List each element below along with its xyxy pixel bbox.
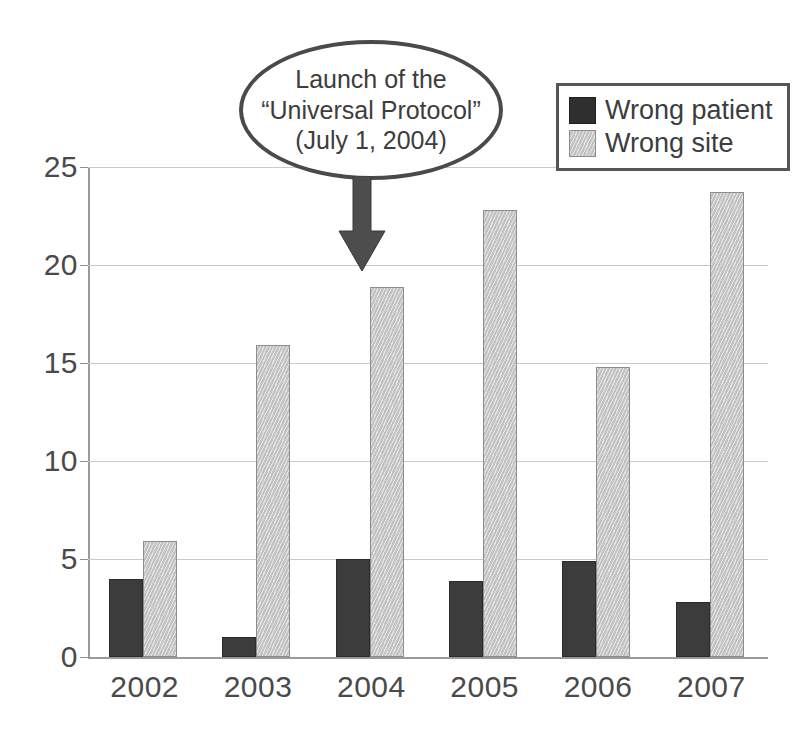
y-axis-tick-mark <box>80 363 88 364</box>
annotation-line-1: Launch of the <box>295 64 447 95</box>
bar-wrong-patient-2004[interactable] <box>336 559 370 657</box>
bar-wrong-patient-2002[interactable] <box>109 579 143 657</box>
bar-wrong-site-2003[interactable] <box>256 345 290 657</box>
y-axis-tick-mark <box>80 265 88 266</box>
y-axis-tick-mark <box>80 657 88 658</box>
bar-wrong-patient-2006[interactable] <box>562 561 596 657</box>
legend-item-wrong-patient[interactable]: Wrong patient <box>569 94 773 127</box>
y-axis-tick-label: 0 <box>61 642 78 672</box>
legend-item-wrong-site[interactable]: Wrong site <box>569 127 773 160</box>
down-arrow-icon <box>338 176 386 272</box>
bar-group-2002 <box>109 167 177 657</box>
gridline <box>88 461 768 462</box>
y-axis-tick-mark <box>80 559 88 560</box>
bar-wrong-site-2007[interactable] <box>710 192 744 657</box>
gridline <box>88 363 768 364</box>
legend-label: Wrong patient <box>605 97 773 124</box>
legend-swatch-icon <box>569 130 596 157</box>
annotation-line-2: “Universal Protocol” <box>261 95 481 126</box>
bar-wrong-patient-2005[interactable] <box>449 581 483 657</box>
plot-area <box>88 167 768 657</box>
x-axis-tick-label-2005: 2005 <box>430 672 540 702</box>
legend-swatch-icon <box>569 97 596 124</box>
x-axis-tick-label-2006: 2006 <box>543 672 653 702</box>
bar-wrong-site-2005[interactable] <box>483 210 517 657</box>
gridline <box>88 265 768 266</box>
x-axis-tick-label-2007: 2007 <box>656 672 766 702</box>
legend-label: Wrong site <box>605 130 734 157</box>
x-axis-line <box>88 657 768 659</box>
bar-group-2005 <box>449 167 517 657</box>
bar-group-2006 <box>562 167 630 657</box>
annotation-callout-ellipse: Launch of the “Universal Protocol” (July… <box>239 40 503 180</box>
x-axis-tick-labels: 200220032004200520062007 <box>88 672 768 718</box>
y-axis-tick-mark <box>80 167 88 168</box>
bar-group-2003 <box>222 167 290 657</box>
bar-wrong-site-2006[interactable] <box>596 367 630 657</box>
y-axis-tick-label: 15 <box>44 348 78 378</box>
y-axis-tick-label: 5 <box>61 544 78 574</box>
bar-group-2007 <box>676 167 744 657</box>
y-axis-tick-label: 10 <box>44 446 78 476</box>
chart-legend: Wrong patientWrong site <box>556 83 790 171</box>
y-axis-tick-mark <box>80 461 88 462</box>
bar-wrong-patient-2003[interactable] <box>222 637 256 657</box>
x-axis-tick-label-2003: 2003 <box>203 672 313 702</box>
annotation-line-3: (July 1, 2004) <box>295 125 446 156</box>
bar-chart-figure: 0510152025 200220032004200520062007 Wron… <box>0 0 799 750</box>
y-axis-tick-label: 20 <box>44 250 78 280</box>
x-axis-tick-label-2004: 2004 <box>316 672 426 702</box>
bar-wrong-site-2004[interactable] <box>370 287 404 657</box>
bar-wrong-patient-2007[interactable] <box>676 602 710 657</box>
bar-wrong-site-2002[interactable] <box>143 541 177 657</box>
y-axis-tick-labels: 0510152025 <box>20 167 78 657</box>
y-axis-tick-label: 25 <box>44 152 78 182</box>
gridline <box>88 559 768 560</box>
x-axis-tick-label-2002: 2002 <box>90 672 200 702</box>
